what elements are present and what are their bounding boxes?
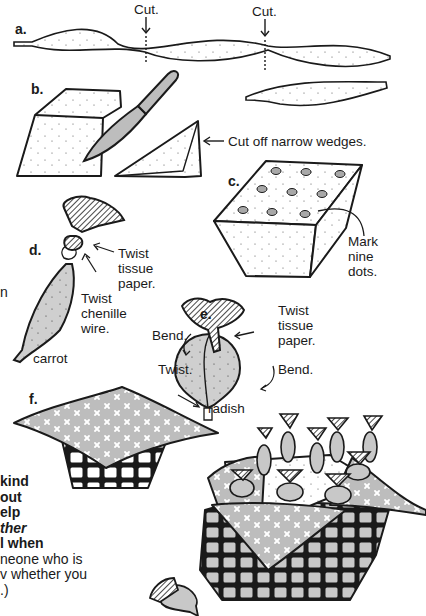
small-radish xyxy=(150,578,198,616)
annotation-twist: Twist. xyxy=(158,362,193,377)
side-text-line: l when xyxy=(0,536,87,552)
step-b-wedge-strip xyxy=(246,82,387,106)
side-body-text: kind out elp ther l when neone who is v … xyxy=(0,474,87,598)
annotation-cut-2: Cut. xyxy=(252,4,277,19)
annotation-mark: Mark xyxy=(348,234,378,249)
side-text-line: elp xyxy=(0,505,87,521)
step-label-b: b. xyxy=(31,81,43,97)
annotation-dots: dots. xyxy=(348,264,377,279)
side-text-line: kind xyxy=(0,474,87,490)
annotation-e-twist-tissue-3: paper. xyxy=(278,333,316,348)
annotation-twist-tissue-1: Twist xyxy=(118,246,149,261)
side-text-line: .) xyxy=(0,583,87,599)
caption-carrot: carrot xyxy=(33,351,68,366)
step-label-f: f. xyxy=(29,391,38,407)
step-label-d: d. xyxy=(29,242,41,258)
pointer-arrow-icon xyxy=(204,137,224,145)
annotation-e-twist-tissue-1: Twist xyxy=(278,303,309,318)
side-text-line: ther xyxy=(0,521,87,537)
annotation-cut-wedges: Cut off narrow wedges. xyxy=(228,134,367,149)
annotation-twist-tissue-2: tissue xyxy=(118,261,153,276)
side-text-line: neone who is xyxy=(0,552,87,568)
annotation-twist-tissue-3: paper. xyxy=(118,276,156,291)
annotation-twist-wire-1: Twist xyxy=(81,291,112,306)
annotation-nine: nine xyxy=(348,249,374,264)
step-label-e: e. xyxy=(200,306,212,322)
pointer-arrow-icons-d xyxy=(82,243,114,272)
side-text-line: v whether you xyxy=(0,567,87,583)
step-f-empty-basket xyxy=(14,387,218,488)
annotation-bend-right: Bend. xyxy=(278,362,313,377)
step-a-foam-strip xyxy=(14,29,390,66)
filled-basket xyxy=(200,455,426,600)
craft-instructions-page: a. b. c. d. e. f. Cut. Cut. Cut off narr… xyxy=(0,0,426,616)
caption-radish: radish xyxy=(208,401,245,416)
step-label-c: c. xyxy=(228,173,240,189)
step-d-carrot xyxy=(14,197,124,362)
clipped-text-fragment: n xyxy=(0,284,8,300)
annotation-e-twist-tissue-2: tissue xyxy=(278,318,313,333)
annotation-twist-wire-3: wire. xyxy=(81,321,110,336)
annotation-twist-wire-2: chenille xyxy=(81,306,127,321)
annotation-cut-1: Cut. xyxy=(134,2,159,17)
annotation-bend-left: Bend. xyxy=(152,328,187,343)
step-label-a: a. xyxy=(15,21,27,37)
side-text-line: out xyxy=(0,490,87,506)
